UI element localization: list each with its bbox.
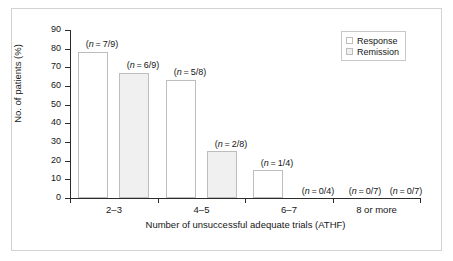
x-tick-2	[245, 198, 246, 203]
legend-swatch-remission-icon	[346, 48, 353, 55]
y-tick-label-70: 70	[33, 62, 61, 71]
y-tick-label-50: 50	[33, 100, 61, 109]
bar-remission-2-3[interactable]	[119, 73, 149, 198]
legend-item-remission[interactable]: Remission	[346, 46, 399, 57]
x-tick-1	[158, 198, 159, 203]
y-tick-label-30: 30	[33, 137, 61, 146]
x-group-label-2-3: 2–3	[70, 204, 158, 215]
x-tick-0	[70, 198, 71, 203]
bar-label-response-6-7: (n = 1/4)	[247, 158, 307, 168]
legend-swatch-response-icon	[346, 37, 353, 44]
bar-response-6-7[interactable]	[253, 170, 283, 198]
bar-label-response-4-5: (n = 5/8)	[160, 67, 220, 77]
y-tick-label-40: 40	[33, 118, 61, 127]
bar-label-response-2-3: (n = 7/9)	[72, 39, 132, 49]
x-group-label-6-7: 6–7	[245, 204, 333, 215]
y-tick-label-90: 90	[33, 25, 61, 34]
x-group-label-8-or-more: 8 or more	[333, 204, 420, 215]
y-tick-label-20: 20	[33, 156, 61, 165]
legend-item-response[interactable]: Response	[346, 35, 399, 46]
y-tick-label-80: 80	[33, 44, 61, 53]
legend-label-response: Response	[357, 36, 398, 46]
bar-remission-4-5[interactable]	[207, 151, 237, 198]
y-tick-label-0: 0	[33, 193, 61, 202]
bar-label-remission-4-5: (n = 2/8)	[201, 139, 261, 149]
x-tick-4	[420, 198, 421, 203]
legend-label-remission: Remission	[357, 47, 399, 57]
x-tick-3	[333, 198, 334, 203]
y-tick-label-60: 60	[33, 81, 61, 90]
y-tick-label-10: 10	[33, 174, 61, 183]
bar-label-remission-8-or-more: (n = 0/7)	[376, 186, 436, 196]
figure-root: 90 80 70 60 50 40 30 20 10 0 No. of pati…	[0, 0, 453, 261]
x-axis-title: Number of unsuccessful adequate trials (…	[70, 219, 421, 230]
x-group-label-4-5: 4–5	[158, 204, 245, 215]
legend: Response Remission	[341, 31, 406, 61]
y-axis-title: No. of patients (%)	[12, 29, 23, 139]
bar-response-4-5[interactable]	[166, 80, 196, 198]
bar-response-2-3[interactable]	[78, 52, 108, 198]
